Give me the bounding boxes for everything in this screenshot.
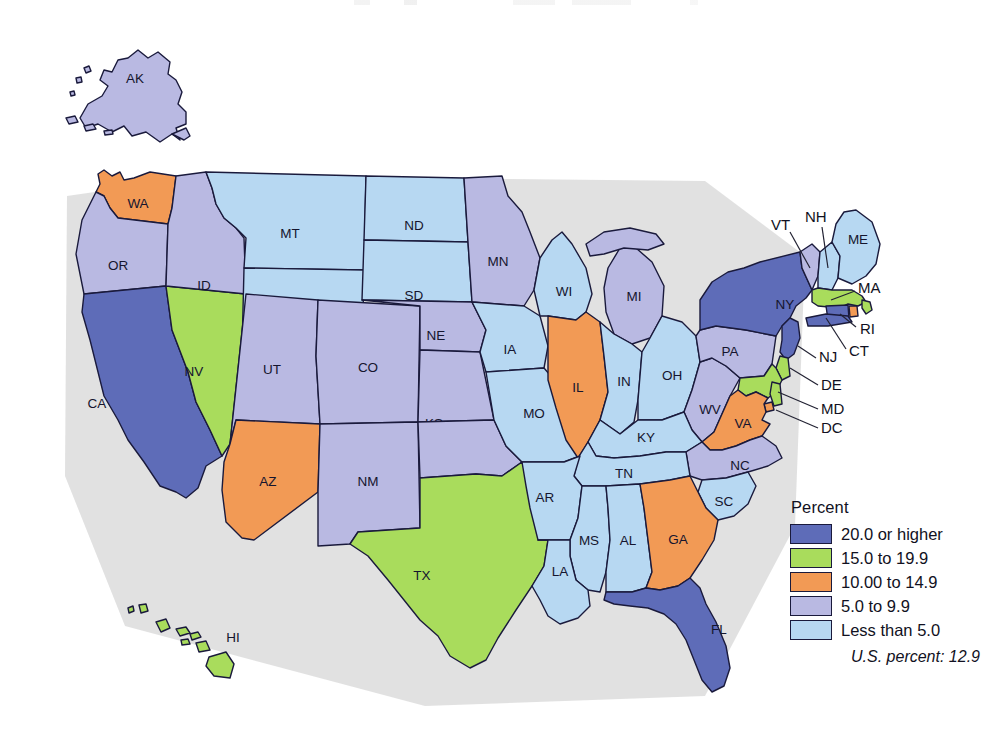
- state-AK-aleutians-3[interactable]: [70, 91, 75, 96]
- state-label-AK: AK: [126, 71, 144, 86]
- legend-row-5-to-9[interactable]: 5.0 to 9.9: [790, 596, 982, 616]
- legend-swatch-navy: [790, 524, 832, 544]
- state-HI-2[interactable]: [139, 604, 148, 613]
- state-NY-longisland[interactable]: [806, 314, 852, 326]
- callout-label-DC: DC: [821, 419, 843, 436]
- state-label-MT: MT: [280, 226, 300, 241]
- state-label-MN: MN: [488, 254, 509, 269]
- state-label-WI: WI: [556, 284, 573, 299]
- state-label-AR: AR: [536, 490, 555, 505]
- state-AK-aleutians-1[interactable]: [84, 66, 91, 73]
- state-label-GA: GA: [668, 532, 688, 547]
- state-label-ME: ME: [848, 232, 868, 247]
- state-label-MI: MI: [627, 289, 642, 304]
- state-label-NV: NV: [185, 364, 204, 379]
- callout-label-MD: MD: [821, 400, 844, 417]
- state-AK-aleutians-5[interactable]: [84, 124, 96, 131]
- callout-label-VT: VT: [771, 216, 790, 233]
- map-legend: Percent 20.0 or higher 15.0 to 19.9 10.0…: [790, 498, 982, 666]
- state-label-IA: IA: [504, 342, 517, 357]
- state-label-MS: MS: [579, 533, 599, 548]
- callout-label-MA: MA: [858, 279, 881, 296]
- us-choropleth-map-figure: AK HI WA OR CA NV ID: [0, 0, 982, 729]
- legend-row-10-to-14[interactable]: 10.00 to 14.9: [790, 572, 982, 592]
- state-label-WA: WA: [127, 196, 148, 211]
- state-label-IN: IN: [617, 374, 631, 389]
- legend-footnote-us-percent: U.S. percent: 12.9: [790, 648, 982, 666]
- state-label-NY: NY: [776, 297, 795, 312]
- legend-swatch-green: [790, 548, 832, 568]
- legend-swatch-orange: [790, 572, 832, 592]
- state-label-ID: ID: [197, 278, 211, 293]
- state-label-TN: TN: [615, 466, 633, 481]
- state-label-VA: VA: [734, 416, 751, 431]
- callout-label-NJ: NJ: [819, 348, 837, 365]
- state-label-SC: SC: [715, 494, 734, 509]
- state-label-AL: AL: [620, 533, 637, 548]
- callout-label-RI: RI: [860, 320, 875, 337]
- state-AK-aleutians-4[interactable]: [66, 116, 78, 124]
- state-label-WV: WV: [699, 402, 721, 417]
- legend-swatch-lightblue: [790, 620, 832, 640]
- legend-row-20-or-higher[interactable]: 20.0 or higher: [790, 524, 982, 544]
- state-label-FL: FL: [711, 622, 727, 637]
- state-label-ND: ND: [404, 218, 424, 233]
- state-label-PA: PA: [721, 344, 738, 359]
- state-label-LA: LA: [552, 564, 569, 579]
- state-label-CO: CO: [358, 360, 378, 375]
- state-label-AZ: AZ: [259, 474, 276, 489]
- state-label-MO: MO: [523, 406, 545, 421]
- legend-swatch-lavender: [790, 596, 832, 616]
- legend-label-lightblue: Less than 5.0: [841, 621, 940, 640]
- state-label-CA: CA: [88, 396, 107, 411]
- state-label-NC: NC: [730, 458, 750, 473]
- legend-label-navy: 20.0 or higher: [841, 525, 943, 544]
- legend-row-15-to-19[interactable]: 15.0 to 19.9: [790, 548, 982, 568]
- state-label-TX: TX: [413, 568, 430, 583]
- state-label-IL: IL: [572, 380, 584, 395]
- legend-label-orange: 10.00 to 14.9: [841, 573, 937, 592]
- state-label-UT: UT: [263, 362, 281, 377]
- state-HI-8[interactable]: [206, 652, 234, 678]
- legend-title: Percent: [791, 498, 982, 517]
- legend-row-less-than-5[interactable]: Less than 5.0: [790, 620, 982, 640]
- callout-label-CT: CT: [849, 342, 869, 359]
- state-MA-cape[interactable]: [862, 300, 872, 314]
- state-label-OH: OH: [662, 368, 682, 383]
- callout-label-DE: DE: [821, 376, 842, 393]
- state-AK-aleutians-2[interactable]: [76, 77, 82, 83]
- state-label-KY: KY: [637, 430, 655, 445]
- state-label-NE: NE: [427, 328, 446, 343]
- state-AK-aleutians-6[interactable]: [104, 130, 113, 135]
- state-HI-6[interactable]: [181, 639, 190, 645]
- state-label-HI: HI: [226, 630, 240, 645]
- state-HI-1[interactable]: [128, 606, 134, 613]
- state-label-NM: NM: [358, 474, 379, 489]
- state-RI[interactable]: [849, 306, 858, 317]
- state-label-OR: OR: [108, 258, 129, 273]
- callout-label-NH: NH: [805, 208, 827, 225]
- state-ME[interactable]: [832, 210, 880, 284]
- legend-label-lavender: 5.0 to 9.9: [841, 597, 910, 616]
- legend-label-green: 15.0 to 19.9: [841, 549, 928, 568]
